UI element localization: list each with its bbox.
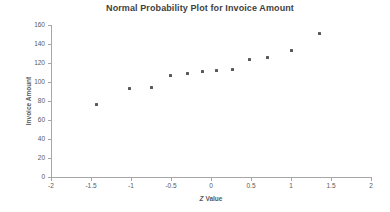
normal-probability-plot-chart: Normal Probability Plot for Invoice Amou… <box>0 0 390 212</box>
x-tick-label: -1.5 <box>76 182 106 190</box>
y-tick <box>48 120 51 121</box>
data-point <box>186 72 189 75</box>
x-tick-label: 0 <box>196 182 226 190</box>
y-tick <box>48 25 51 26</box>
x-tick <box>331 178 332 181</box>
y-tick <box>48 82 51 83</box>
x-tick <box>131 178 132 181</box>
data-point <box>201 70 204 73</box>
data-point <box>248 58 251 61</box>
y-tick <box>48 101 51 102</box>
y-tick-label: 60 <box>12 116 45 124</box>
y-tick-label: 0 <box>12 173 45 181</box>
x-tick-label: -0.5 <box>156 182 186 190</box>
x-tick-label: 0.5 <box>236 182 266 190</box>
y-tick-label: 80 <box>12 97 45 105</box>
y-tick-label: 40 <box>12 135 45 143</box>
x-tick-label: -1 <box>116 182 146 190</box>
x-tick <box>51 178 52 181</box>
y-tick-label: 100 <box>12 78 45 86</box>
data-point <box>266 56 269 59</box>
y-tick-label: 20 <box>12 154 45 162</box>
x-tick <box>291 178 292 181</box>
y-axis-line <box>51 25 52 178</box>
data-point <box>231 68 234 71</box>
data-point <box>215 69 218 72</box>
data-point <box>169 74 172 77</box>
y-tick-label: 160 <box>12 21 45 29</box>
x-tick-label: 2 <box>356 182 386 190</box>
x-tick <box>211 178 212 181</box>
x-axis-title-rest-part: Value <box>204 195 223 202</box>
data-point <box>290 49 293 52</box>
x-tick-label: 1 <box>276 182 306 190</box>
y-tick <box>48 44 51 45</box>
x-tick <box>91 178 92 181</box>
y-tick-label: 140 <box>12 40 45 48</box>
x-tick-label: 1.5 <box>316 182 346 190</box>
data-point <box>128 87 131 90</box>
data-point <box>95 103 98 106</box>
plot-area: 020406080100120140160-2-1.5-1-0.500.511.… <box>51 25 371 177</box>
y-tick <box>48 158 51 159</box>
x-axis-line <box>51 177 372 178</box>
y-tick <box>48 139 51 140</box>
chart-title: Normal Probability Plot for Invoice Amou… <box>10 3 390 13</box>
y-tick <box>48 63 51 64</box>
x-tick-label: -2 <box>36 182 66 190</box>
data-point <box>150 86 153 89</box>
y-tick-label: 120 <box>12 59 45 67</box>
x-tick <box>371 178 372 181</box>
x-axis-title: Z Value <box>51 195 371 202</box>
x-tick <box>251 178 252 181</box>
x-tick <box>171 178 172 181</box>
data-point <box>318 32 321 35</box>
